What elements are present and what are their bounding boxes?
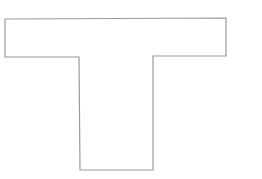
t-shape-outline (5, 18, 226, 170)
t-shape-diagram (0, 0, 262, 179)
